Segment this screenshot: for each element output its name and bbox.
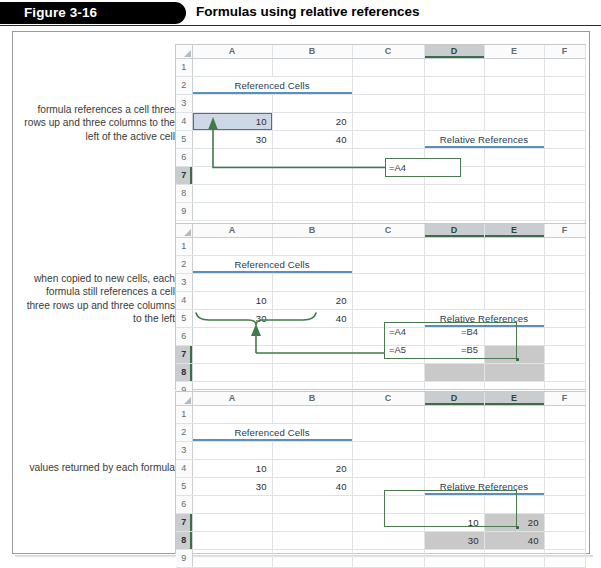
cell-b9[interactable] [272,549,352,567]
column-header-b[interactable]: B [272,392,352,405]
cell-c2[interactable] [352,423,424,441]
column-header-d[interactable]: D [424,224,484,237]
column-header-a[interactable]: A [192,45,272,58]
cell-a6[interactable] [192,148,272,166]
cell-f6[interactable] [544,327,585,345]
cell-b4[interactable]: 20 [272,112,352,130]
cell-e1[interactable] [484,405,544,423]
row-header-1[interactable]: 1 [176,58,192,76]
row-header-1[interactable]: 1 [176,237,192,255]
cell-a4[interactable]: 10 [192,112,272,130]
cell-b6[interactable] [272,495,352,513]
row-header-3[interactable]: 3 [176,94,192,112]
row-header-6[interactable]: 6 [176,495,192,513]
cell-b5[interactable]: 40 [272,309,352,327]
cell-c8[interactable] [352,531,424,549]
cell-c4[interactable] [352,459,424,477]
cell-f3[interactable] [544,273,585,291]
cell-e7[interactable]: 20 [484,513,544,531]
cell-a1[interactable] [192,58,272,76]
row-header-3[interactable]: 3 [176,441,192,459]
cell-d3[interactable] [424,273,484,291]
cell-b3[interactable] [272,441,352,459]
column-header-e[interactable]: E [484,224,544,237]
cell-d7[interactable]: 10 [424,513,484,531]
cell-d1[interactable] [424,405,484,423]
cell-d4[interactable] [424,291,484,309]
cell-f5[interactable] [544,309,585,327]
cell-f9[interactable] [544,202,585,220]
row-header-2[interactable]: 2 [176,423,192,441]
select-all-corner[interactable] [176,45,192,58]
cell-b6[interactable] [272,148,352,166]
cell-c5[interactable] [352,477,424,495]
cell-f1[interactable] [544,58,585,76]
cell-f8[interactable] [544,184,585,202]
cell-e4[interactable] [484,291,544,309]
cell-f1[interactable] [544,237,585,255]
select-all-corner[interactable] [176,392,192,405]
column-header-c[interactable]: C [352,45,424,58]
spreadsheet-panel-3[interactable]: A B C D E F 1 2 Referenced Cells 3 4 1 [175,391,586,554]
cell-c3[interactable] [352,94,424,112]
column-header-d[interactable]: D [424,45,484,58]
cell-f4[interactable] [544,291,585,309]
cell-b9[interactable] [272,202,352,220]
cell-a3[interactable] [192,441,272,459]
cell-d3[interactable] [424,94,484,112]
column-header-e[interactable]: E [484,45,544,58]
cell-e2[interactable] [484,76,544,94]
cell-f7[interactable] [544,345,585,363]
cell-c1[interactable] [352,58,424,76]
cell-b5[interactable]: 40 [272,130,352,148]
row-header-5[interactable]: 5 [176,130,192,148]
cell-f2[interactable] [544,76,585,94]
column-header-a[interactable]: A [192,392,272,405]
column-header-f[interactable]: F [544,45,585,58]
fill-handle[interactable] [516,358,519,361]
cell-b5[interactable]: 40 [272,477,352,495]
row-header-8[interactable]: 8 [176,184,192,202]
row-header-2[interactable]: 2 [176,76,192,94]
cell-f3[interactable] [544,441,585,459]
cell-d9[interactable] [424,202,484,220]
row-header-8[interactable]: 8 [176,531,192,549]
cell-d8[interactable]: 30 [424,531,484,549]
cell-c8[interactable] [352,363,424,381]
cell-d4[interactable] [424,112,484,130]
row-header-7[interactable]: 7 [176,166,192,184]
column-header-c[interactable]: C [352,224,424,237]
cell-a3[interactable] [192,273,272,291]
cell-b3[interactable] [272,273,352,291]
cell-e2[interactable] [484,423,544,441]
cell-c3[interactable] [352,273,424,291]
cell-e9[interactable] [484,202,544,220]
column-header-f[interactable]: F [544,392,585,405]
cell-f7[interactable] [544,166,585,184]
spreadsheet-panel-2[interactable]: A B C D E F 1 2 Referenced Cells 3 4 1 [175,223,586,390]
cell-e6[interactable] [484,148,544,166]
cell-f2[interactable] [544,255,585,273]
cell-c7[interactable] [352,513,424,531]
row-header-7[interactable]: 7 [176,513,192,531]
cell-a6[interactable] [192,495,272,513]
row-header-6[interactable]: 6 [176,327,192,345]
cell-b1[interactable] [272,237,352,255]
cell-f5[interactable] [544,477,585,495]
cell-a8[interactable] [192,531,272,549]
cell-a5[interactable]: 30 [192,130,272,148]
cell-f8[interactable] [544,363,585,381]
column-header-c[interactable]: C [352,392,424,405]
cell-d8[interactable] [424,363,484,381]
spreadsheet-panel-1[interactable]: A B C D E F 1 2 Referenced Cells 3 4 1 [175,44,586,226]
cell-d2[interactable] [424,76,484,94]
cell-e8[interactable]: 40 [484,531,544,549]
cell-b7[interactable] [272,166,352,184]
cell-b8[interactable] [272,531,352,549]
column-header-b[interactable]: B [272,224,352,237]
row-header-5[interactable]: 5 [176,309,192,327]
row-header-9[interactable]: 9 [176,202,192,220]
select-all-corner[interactable] [176,224,192,237]
column-header-a[interactable]: A [192,224,272,237]
cell-c4[interactable] [352,291,424,309]
